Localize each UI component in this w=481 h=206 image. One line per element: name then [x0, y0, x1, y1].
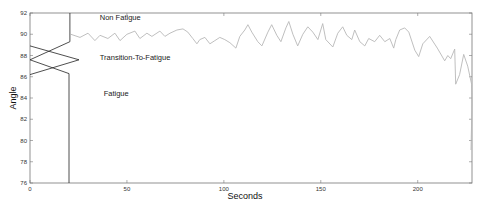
annotation-fatigue: Fatigue [104, 89, 129, 98]
y-tick-label: 78 [20, 159, 27, 165]
annotation-non-fatigue: Non Fatigue [100, 13, 141, 22]
annotation-transition-to-fatigue: Transition-To-Fatigue [100, 53, 171, 62]
x-tick-label: 50 [124, 186, 131, 192]
y-tick-label: 86 [20, 74, 27, 80]
y-tick-label: 88 [20, 53, 27, 59]
y-tick-label: 84 [20, 95, 27, 101]
line-chart: 767880828486889092 050100150200 Non Fati… [0, 0, 481, 206]
plot-area: 767880828486889092 050100150200 Non Fati… [20, 10, 472, 192]
y-axis-label: Angle [8, 86, 18, 109]
x-tick-label: 200 [413, 186, 424, 192]
y-tick-label: 80 [20, 138, 27, 144]
x-tick-label: 150 [316, 186, 327, 192]
y-tick-label: 76 [20, 180, 27, 186]
y-tick-label: 90 [20, 31, 27, 37]
y-tick-label: 82 [20, 116, 27, 122]
x-tick-label: 0 [28, 186, 32, 192]
y-tick-label: 92 [20, 10, 27, 16]
x-axis-label: Seconds [227, 191, 263, 201]
